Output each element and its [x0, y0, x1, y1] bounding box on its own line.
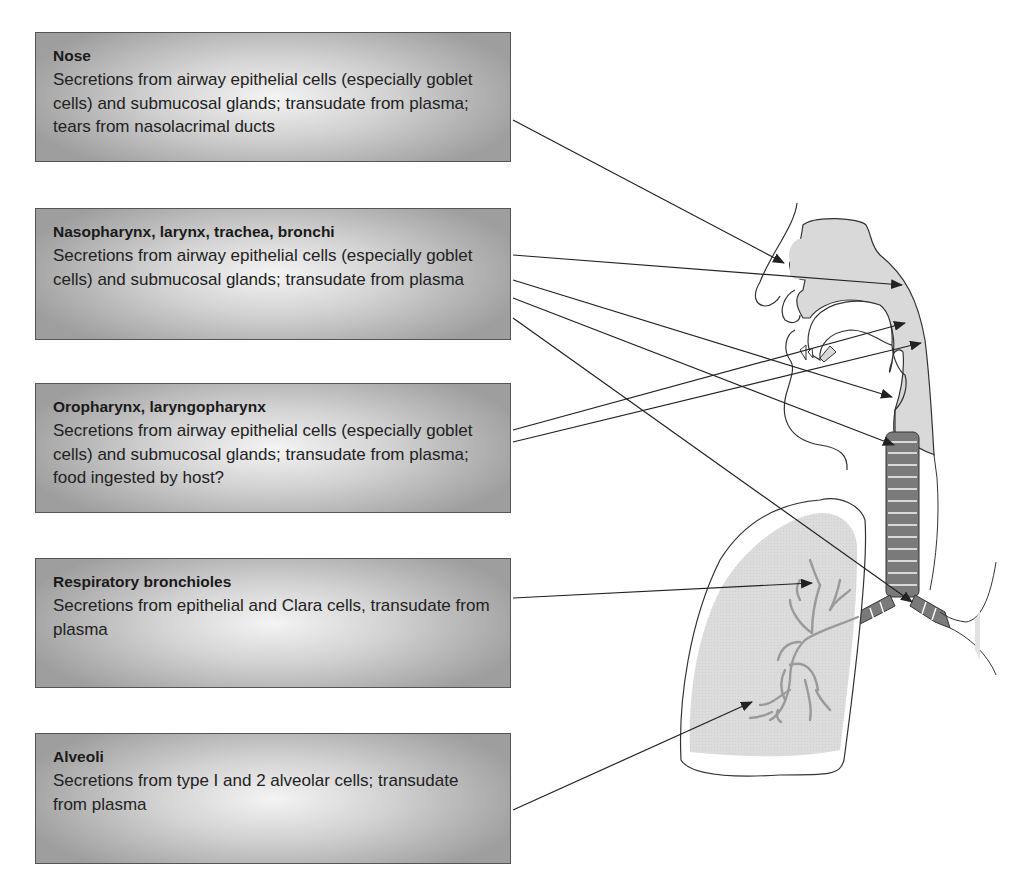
region-description: Secretions from airway epithelial cells … [53, 244, 493, 291]
body-contour-line [940, 562, 996, 622]
region-title: Respiratory bronchioles [53, 571, 493, 593]
region-description: Secretions from epithelial and Clara cel… [53, 594, 493, 641]
label-box-respiratory-bronchioles: Respiratory bronchioles Secretions from … [35, 558, 511, 688]
arrow-bronchi [513, 318, 912, 602]
region-title: Alveoli [53, 746, 493, 768]
head-airway-illustration [755, 203, 935, 470]
region-description: Secretions from airway epithelial cells … [53, 68, 493, 139]
arrow-oropharynx [513, 323, 905, 430]
region-title: Nasopharynx, larynx, trachea, bronchi [53, 221, 493, 243]
label-box-alveoli: Alveoli Secretions from type I and 2 alv… [35, 733, 511, 864]
trachea-illustration [858, 432, 950, 628]
region-title: Nose [53, 45, 493, 67]
region-description: Secretions from airway epithelial cells … [53, 419, 493, 490]
label-box-nasopharynx-larynx-trachea-bronchi: Nasopharynx, larynx, trachea, bronchi Se… [35, 208, 511, 340]
region-description: Secretions from type I and 2 alveolar ce… [53, 769, 493, 816]
arrow-laryngopharynx [513, 343, 921, 442]
arrow-nose [513, 120, 784, 263]
label-box-nose: Nose Secretions from airway epithelial c… [35, 32, 511, 162]
label-box-oropharynx-laryngopharynx: Oropharynx, laryngopharynx Secretions fr… [35, 383, 511, 513]
region-title: Oropharynx, laryngopharynx [53, 396, 493, 418]
lung-illustration [681, 499, 866, 776]
